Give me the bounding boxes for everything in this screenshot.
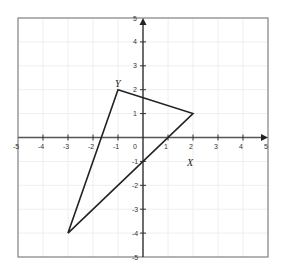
x-axis-arrow-icon bbox=[261, 134, 268, 141]
x-tick-label: 5 bbox=[264, 143, 268, 150]
y-tick-label: -2 bbox=[132, 182, 138, 189]
y-tick-label: 5 bbox=[133, 15, 137, 22]
x-tick-label: 3 bbox=[214, 143, 218, 150]
y-tick-label: 1 bbox=[133, 110, 137, 117]
vertex-label-x: X bbox=[186, 157, 194, 168]
y-tick-label: -4 bbox=[132, 230, 138, 237]
y-tick-label: -5 bbox=[132, 254, 138, 261]
y-tick-label: 4 bbox=[133, 38, 137, 45]
x-tick-label: 1 bbox=[164, 143, 168, 150]
x-tick-label: 0 bbox=[133, 143, 137, 150]
y-axis-arrow-icon bbox=[140, 18, 147, 25]
y-tick-label: -1 bbox=[132, 158, 138, 165]
coordinate-plane: -5-4-3-2-1012345-5-4-3-2-112345 YX bbox=[0, 0, 282, 271]
x-tick-label: -5 bbox=[13, 143, 19, 150]
y-tick-label: -3 bbox=[132, 206, 138, 213]
y-tick-label: 2 bbox=[133, 86, 137, 93]
axes bbox=[18, 18, 268, 257]
x-tick-label: -3 bbox=[63, 143, 69, 150]
y-tick-label: 3 bbox=[133, 62, 137, 69]
vertex-labels: YX bbox=[115, 78, 194, 168]
vertex-label-y: Y bbox=[115, 78, 122, 89]
x-tick-label: -4 bbox=[38, 143, 44, 150]
x-tick-label: -1 bbox=[113, 143, 119, 150]
x-tick-label: -2 bbox=[88, 143, 94, 150]
x-tick-label: 4 bbox=[239, 143, 243, 150]
x-tick-label: 2 bbox=[189, 143, 193, 150]
